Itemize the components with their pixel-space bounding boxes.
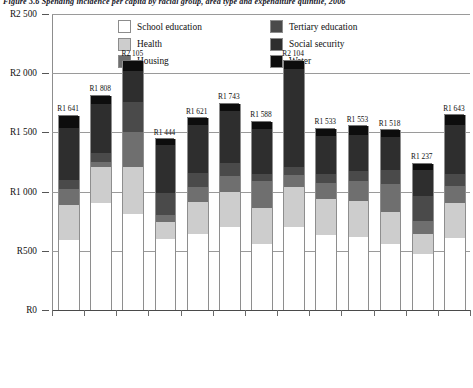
bar-segment-tertiary-education[interactable] xyxy=(284,167,304,175)
bar-segment-water[interactable] xyxy=(445,115,465,125)
bar-segment-water[interactable] xyxy=(91,96,111,104)
bar-segment-water[interactable] xyxy=(381,130,401,137)
bar-segment-health[interactable] xyxy=(123,167,143,214)
bar-segment-health[interactable] xyxy=(413,234,433,255)
bar-segment-social-security[interactable] xyxy=(220,111,240,163)
bar-segment-water[interactable] xyxy=(188,118,208,125)
bar-segment-social-security[interactable] xyxy=(123,71,143,102)
bar-segment-tertiary-education[interactable] xyxy=(123,102,143,132)
bar-segment-school-education[interactable] xyxy=(381,244,401,310)
stacked-bar[interactable] xyxy=(380,130,402,310)
bar-segment-social-security[interactable] xyxy=(156,145,176,194)
bar-group[interactable]: R1 808 xyxy=(90,14,110,310)
bar-group[interactable]: R1 518 xyxy=(380,14,400,310)
bar-segment-tertiary-education[interactable] xyxy=(381,170,401,184)
stacked-bar[interactable] xyxy=(315,129,337,311)
bar-segment-school-education[interactable] xyxy=(188,234,208,310)
bar-segment-housing[interactable] xyxy=(316,183,336,199)
stacked-bar[interactable] xyxy=(58,116,80,310)
bar-segment-housing[interactable] xyxy=(349,181,369,201)
bar-segment-tertiary-education[interactable] xyxy=(156,193,176,214)
bar-segment-social-security[interactable] xyxy=(188,125,208,172)
stacked-bar[interactable] xyxy=(155,139,177,310)
bar-segment-health[interactable] xyxy=(252,208,272,244)
bar-segment-health[interactable] xyxy=(284,187,304,227)
bar-segment-tertiary-education[interactable] xyxy=(91,153,111,162)
bar-segment-health[interactable] xyxy=(91,167,111,203)
bar-segment-water[interactable] xyxy=(349,126,369,135)
bar-segment-school-education[interactable] xyxy=(220,227,240,310)
stacked-bar[interactable] xyxy=(444,115,466,310)
bar-segment-housing[interactable] xyxy=(188,187,208,202)
bar-segment-school-education[interactable] xyxy=(445,238,465,310)
bar-segment-tertiary-education[interactable] xyxy=(445,174,465,185)
bar-segment-school-education[interactable] xyxy=(91,203,111,310)
bar-group[interactable]: R2 104 xyxy=(283,14,303,310)
bar-group[interactable]: R1 643 xyxy=(444,14,464,310)
bar-segment-social-security[interactable] xyxy=(445,125,465,174)
bar-segment-water[interactable] xyxy=(252,122,272,129)
bar-segment-housing[interactable] xyxy=(156,215,176,222)
bar-segment-tertiary-education[interactable] xyxy=(220,163,240,176)
bar-segment-housing[interactable] xyxy=(381,184,401,211)
bar-segment-social-security[interactable] xyxy=(91,104,111,153)
bar-segment-housing[interactable] xyxy=(252,181,272,208)
stacked-bar[interactable] xyxy=(90,96,112,310)
bar-group[interactable]: R1 743 xyxy=(219,14,239,310)
bar-segment-tertiary-education[interactable] xyxy=(252,174,272,181)
bar-segment-housing[interactable] xyxy=(220,176,240,192)
stacked-bar[interactable] xyxy=(219,104,241,310)
bar-segment-health[interactable] xyxy=(349,201,369,237)
bar-segment-tertiary-education[interactable] xyxy=(59,180,79,189)
bar-group[interactable]: R2 105 xyxy=(122,14,142,310)
bar-segment-health[interactable] xyxy=(188,202,208,234)
bar-group[interactable]: R1 444 xyxy=(155,14,175,310)
bar-segment-health[interactable] xyxy=(59,205,79,240)
bar-group[interactable]: R1 237 xyxy=(412,14,432,310)
bar-group[interactable]: R1 553 xyxy=(348,14,368,310)
bar-segment-tertiary-education[interactable] xyxy=(349,171,369,181)
bar-segment-social-security[interactable] xyxy=(252,129,272,173)
bar-segment-housing[interactable] xyxy=(413,221,433,234)
stacked-bar[interactable] xyxy=(251,122,273,310)
stacked-bar[interactable] xyxy=(412,164,434,310)
bar-segment-social-security[interactable] xyxy=(349,135,369,171)
stacked-bar[interactable] xyxy=(348,126,370,310)
bar-segment-school-education[interactable] xyxy=(413,254,433,310)
bar-segment-social-security[interactable] xyxy=(413,170,433,197)
bar-segment-water[interactable] xyxy=(316,129,336,136)
bar-segment-school-education[interactable] xyxy=(59,240,79,310)
bar-segment-school-education[interactable] xyxy=(316,235,336,310)
bar-segment-health[interactable] xyxy=(220,192,240,227)
bar-segment-health[interactable] xyxy=(156,222,176,239)
bar-segment-social-security[interactable] xyxy=(59,128,79,180)
bar-segment-housing[interactable] xyxy=(59,189,79,204)
bar-group[interactable]: R1 641 xyxy=(58,14,78,310)
bar-segment-social-security[interactable] xyxy=(284,69,304,167)
bar-segment-water[interactable] xyxy=(284,61,304,69)
bar-segment-housing[interactable] xyxy=(123,132,143,168)
bar-segment-school-education[interactable] xyxy=(123,214,143,310)
bar-group[interactable]: R1 533 xyxy=(315,14,335,310)
bar-segment-housing[interactable] xyxy=(445,186,465,204)
bar-segment-health[interactable] xyxy=(445,203,465,237)
bar-segment-social-security[interactable] xyxy=(381,137,401,170)
bar-segment-housing[interactable] xyxy=(284,175,304,187)
stacked-bar[interactable] xyxy=(122,61,144,310)
stacked-bar[interactable] xyxy=(283,61,305,310)
bar-segment-tertiary-education[interactable] xyxy=(316,174,336,183)
bar-segment-tertiary-education[interactable] xyxy=(188,173,208,187)
bar-segment-school-education[interactable] xyxy=(156,239,176,310)
bar-segment-social-security[interactable] xyxy=(316,136,336,174)
bar-segment-school-education[interactable] xyxy=(349,237,369,310)
bar-group[interactable]: R1 588 xyxy=(251,14,271,310)
bar-segment-school-education[interactable] xyxy=(252,244,272,310)
bar-segment-tertiary-education[interactable] xyxy=(413,196,433,220)
bar-segment-school-education[interactable] xyxy=(284,227,304,310)
bar-segment-water[interactable] xyxy=(123,61,143,72)
bar-segment-health[interactable] xyxy=(381,212,401,244)
bar-segment-health[interactable] xyxy=(316,199,336,235)
bar-group[interactable]: R1 621 xyxy=(187,14,207,310)
stacked-bar[interactable] xyxy=(187,118,209,310)
bar-segment-water[interactable] xyxy=(59,116,79,128)
